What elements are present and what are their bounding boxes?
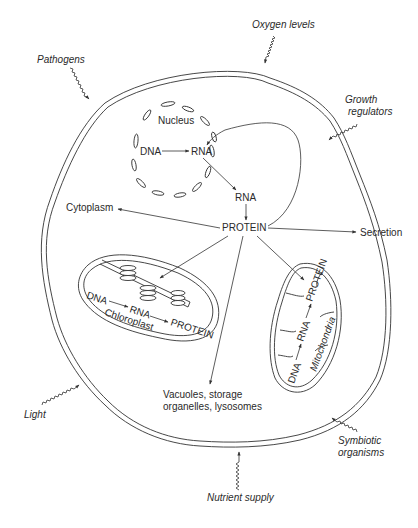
nucleus-rna-label: RNA bbox=[191, 146, 212, 157]
vacuoles-label-line2: organelles, lysosomes bbox=[163, 401, 262, 412]
mitochondria-dna-label: DNA bbox=[286, 361, 304, 385]
nutrient-wavy-arrow bbox=[236, 452, 239, 490]
grana-stack bbox=[171, 291, 185, 306]
vacuoles-label-line1: Vacuoles, storage bbox=[163, 389, 243, 400]
chloroplast-dna-label: DNA bbox=[85, 289, 109, 306]
mitochondria-rna-to-protein-arrow bbox=[306, 304, 311, 318]
nutrient-label: Nutrient supply bbox=[207, 492, 275, 503]
growth-label-line1: Growth bbox=[345, 94, 378, 105]
grana-stack bbox=[140, 286, 156, 301]
symbiotic-label-line2: organisms bbox=[338, 447, 384, 458]
mitochondria-dna-to-rna-arrow bbox=[296, 344, 301, 360]
secretion-label: Secretion bbox=[360, 227, 402, 238]
oxygen-wavy-arrow bbox=[265, 36, 275, 63]
protein-to-chloroplast-arrow bbox=[160, 236, 228, 278]
grana-stack bbox=[120, 266, 136, 281]
mitochondria-protein-label: PROTEIN bbox=[304, 257, 330, 303]
protein-to-mitochondria-arrow bbox=[257, 236, 304, 280]
light-label: Light bbox=[24, 409, 47, 420]
protein-to-secretion-arrow bbox=[268, 228, 356, 232]
symbiotic-label-line1: Symbiotic bbox=[338, 435, 381, 446]
chloroplast-protein-label: PROTEIN bbox=[169, 316, 215, 340]
cell-diagram: Nucleus DNA RNA RNA PROTEIN Cytoplasm Se… bbox=[0, 0, 418, 528]
chloroplast-dna-to-rna-arrow bbox=[109, 301, 128, 307]
protein-to-vacuoles-arrow bbox=[210, 236, 243, 384]
cytosol-rna-label: RNA bbox=[235, 192, 256, 203]
pathogens-label: Pathogens bbox=[37, 54, 85, 65]
mitochondria-rna-label: RNA bbox=[295, 319, 313, 343]
oxygen-label: Oxygen levels bbox=[252, 19, 315, 30]
light-wavy-arrow bbox=[42, 385, 79, 405]
cytoplasm-label: Cytoplasm bbox=[66, 202, 113, 213]
nucleus-dna-label: DNA bbox=[140, 146, 161, 157]
protein-to-cytoplasm-arrow bbox=[118, 209, 220, 228]
protein-feedback-arrow bbox=[207, 123, 301, 226]
nucleus-label: Nucleus bbox=[158, 115, 194, 126]
cytosol-protein-label: PROTEIN bbox=[222, 222, 266, 233]
pathogens-wavy-arrow bbox=[70, 68, 89, 99]
growth-label-line2: regulators bbox=[348, 106, 392, 117]
